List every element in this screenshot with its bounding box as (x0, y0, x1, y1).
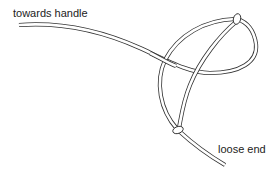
handle-cord (19, 19, 256, 73)
loose-end-label: loose end (218, 144, 266, 155)
handle-label: towards handle (13, 8, 88, 19)
